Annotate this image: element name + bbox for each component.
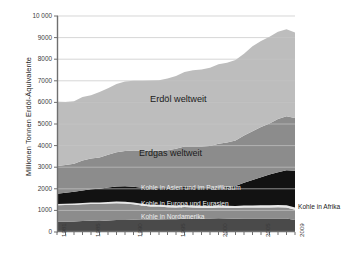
y-tick-label: 2000 — [12, 185, 52, 192]
x-tick-label: 2000 — [221, 211, 228, 237]
series-label-kohle-nordamerika: Kohle in Nordamerika — [141, 213, 204, 220]
chart-figure: Millionen Tonnen Erdöl-Äquivalente 10 00… — [0, 0, 344, 264]
y-tick-label: 4000 — [12, 142, 52, 149]
y-tick-label: 9000 — [12, 34, 52, 41]
y-tick-label: 7000 — [12, 77, 52, 84]
series-label-kohle-asien-pazifikraum: Kohle in Asien und im Pazifikraum — [141, 184, 241, 191]
series-label-erdgas-weltweit: Erdgas weltweit — [139, 148, 202, 158]
y-tick-label: 6000 — [12, 98, 52, 105]
series-label-kohle-afrika: Kohle in Afrika — [298, 203, 340, 210]
y-tick-label: 3000 — [12, 163, 52, 170]
x-tick-label: 2005 — [264, 211, 271, 237]
y-tick-label: 1000 — [12, 206, 52, 213]
y-tick-label: 10 000 — [12, 12, 52, 19]
y-tick-label: 8000 — [12, 55, 52, 62]
y-tick-label: 0 — [12, 228, 52, 235]
x-tick-label: 1985 — [94, 211, 101, 237]
series-label-erdoel-weltweit: Erdöl weltweit — [150, 94, 207, 104]
series-label-kohle-europa-eurasien: Kohle in Europa und Eurasien — [141, 200, 229, 207]
x-tick-label: 2009 — [298, 211, 305, 237]
x-tick-label: 1981 — [60, 211, 67, 237]
y-tick-label: 5000 — [12, 120, 52, 127]
